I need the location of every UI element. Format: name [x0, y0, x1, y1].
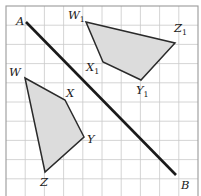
vertex-label-X: X	[65, 86, 75, 100]
vertex-label-Z: Z	[39, 175, 49, 189]
vertex-label-W: W	[9, 65, 22, 79]
vertex-label-B: B	[180, 178, 189, 192]
vertex-label-A: A	[15, 14, 24, 28]
geometry-figure: ABWXYZW1X1Y1Z1	[0, 0, 201, 196]
figure-svg: ABWXYZW1X1Y1Z1	[0, 0, 201, 196]
